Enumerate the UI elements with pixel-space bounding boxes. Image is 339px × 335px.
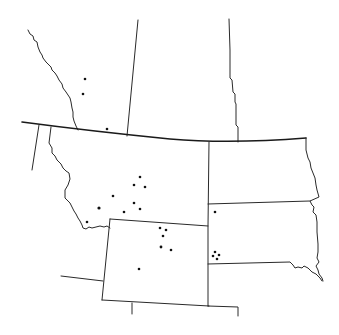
occurrence-point: [133, 184, 136, 187]
wyoming-south-border: [102, 300, 209, 306]
dakotas-east-border: [306, 138, 323, 281]
occurrence-point: [86, 221, 89, 224]
occurrence-point: [159, 227, 162, 230]
dakotas-west-border: [208, 142, 209, 306]
sd-nebraska-border: [208, 262, 322, 281]
occurrence-point: [170, 249, 173, 252]
occurrence-point: [212, 255, 215, 258]
occurrence-point: [133, 202, 136, 205]
bc-alberta-border: [28, 30, 78, 130]
occurrence-point: [112, 195, 115, 198]
saskatchewan-manitoba-border: [229, 19, 238, 142]
occurrence-point: [106, 128, 109, 131]
occurrence-point: [162, 235, 165, 238]
idaho-south-border: [61, 276, 103, 281]
occurrence-points: [82, 78, 221, 271]
wyoming-west-border: [102, 219, 110, 300]
idaho-west-border: [32, 125, 39, 170]
occurrence-point: [165, 229, 168, 232]
region-map: [0, 0, 339, 335]
occurrence-point: [214, 211, 217, 214]
occurrence-point: [218, 254, 221, 257]
montana-idaho-border: [49, 127, 110, 229]
occurrence-point: [139, 208, 142, 211]
montana-wyoming-border: [110, 219, 208, 226]
nebraska-panhandle-border: [208, 306, 238, 316]
occurrence-point: [97, 206, 100, 209]
occurrence-point: [139, 176, 142, 179]
occurrence-point: [160, 246, 163, 249]
occurrence-point: [82, 93, 85, 96]
occurrence-point: [216, 258, 219, 261]
occurrence-point: [138, 268, 141, 271]
occurrence-point: [144, 186, 147, 189]
occurrence-point: [123, 211, 126, 214]
occurrence-point: [84, 78, 87, 81]
nd-sd-border: [208, 201, 310, 204]
canada-us-border: [22, 122, 306, 141]
occurrence-point: [214, 251, 217, 254]
alberta-saskatchewan-border: [127, 20, 138, 136]
